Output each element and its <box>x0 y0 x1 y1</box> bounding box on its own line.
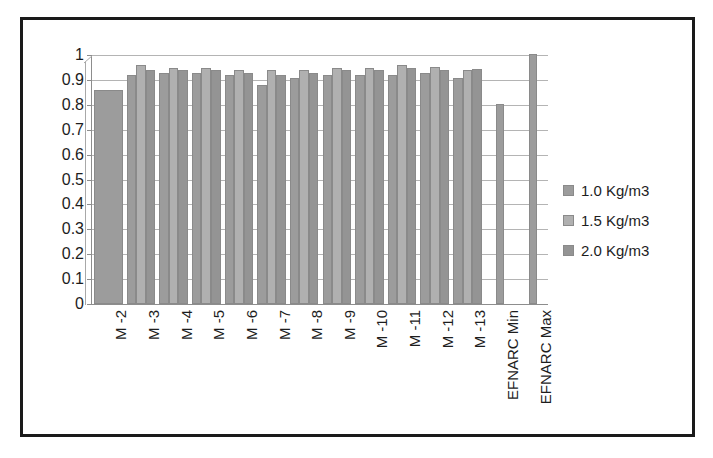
series-2-swatch <box>563 215 574 226</box>
bar[interactable] <box>211 70 221 304</box>
legend-label: 1.5 Kg/m3 <box>581 213 649 228</box>
legend-entry[interactable]: 1.5 Kg/m3 <box>563 205 688 235</box>
bar-group <box>192 55 221 304</box>
figure-frame: 10.90.80.70.60.50.40.30.20.10 M -2M -3M … <box>20 17 695 437</box>
bar[interactable] <box>374 70 384 304</box>
series-1-swatch <box>563 185 574 196</box>
bar[interactable] <box>496 104 504 304</box>
bar[interactable] <box>201 68 211 304</box>
bar[interactable] <box>309 73 319 304</box>
legend-label: 2.0 Kg/m3 <box>581 243 649 258</box>
x-tick-label: M -9 <box>342 310 357 340</box>
y-tick-label: 1 <box>75 47 84 63</box>
series-3-swatch <box>563 245 574 256</box>
y-tick-label: 0.4 <box>62 196 84 212</box>
bar[interactable] <box>178 70 188 304</box>
bar-group <box>94 55 123 304</box>
y-tick-label: 0 <box>75 296 84 312</box>
y-tick-label: 0.9 <box>62 72 84 88</box>
legend-entry[interactable]: 2.0 Kg/m3 <box>563 235 688 265</box>
y-tick-label: 0.8 <box>62 97 84 113</box>
bar[interactable] <box>244 73 254 304</box>
bar[interactable] <box>225 75 235 304</box>
x-tick-label: EFNARC Max <box>538 310 553 404</box>
bar-group <box>127 55 156 304</box>
plot-area: 10.90.80.70.60.50.40.30.20.10 <box>91 55 548 305</box>
bar[interactable] <box>397 65 407 304</box>
chart-legend: 1.0 Kg/m31.5 Kg/m32.0 Kg/m3 <box>563 175 688 265</box>
bar[interactable] <box>234 70 244 304</box>
bar-group <box>453 55 482 304</box>
bar[interactable] <box>453 78 463 304</box>
y-tick-label: 0.5 <box>62 172 84 188</box>
x-tick-label: M -8 <box>309 310 324 340</box>
x-tick-label: M -10 <box>374 310 389 348</box>
x-tick-label: M -7 <box>277 310 292 340</box>
bar[interactable] <box>365 68 375 304</box>
bar[interactable] <box>440 70 450 304</box>
chart-canvas: 10.90.80.70.60.50.40.30.20.10 M -2M -3M … <box>23 20 692 434</box>
y-tick-label: 0.6 <box>62 147 84 163</box>
bar-group <box>323 55 352 304</box>
bar[interactable] <box>94 90 123 304</box>
bars-layer <box>92 55 548 304</box>
x-tick-label: EFNARC Min <box>505 310 520 400</box>
bar-group <box>388 55 417 304</box>
legend-label: 1.0 Kg/m3 <box>581 183 649 198</box>
bar[interactable] <box>146 70 156 304</box>
bar-group <box>355 55 384 304</box>
y-tick-label: 0.3 <box>62 221 84 237</box>
bar[interactable] <box>136 65 146 304</box>
bar[interactable] <box>332 68 342 304</box>
legend-entry[interactable]: 1.0 Kg/m3 <box>563 175 688 205</box>
y-tick-label: 0.1 <box>62 271 84 287</box>
bar-group <box>290 55 319 304</box>
bar[interactable] <box>323 75 333 304</box>
bar[interactable] <box>420 73 430 304</box>
x-tick-label: M -6 <box>244 310 259 340</box>
bar[interactable] <box>355 75 365 304</box>
x-tick-label: M -2 <box>113 310 128 340</box>
y-tick-label: 0.2 <box>62 246 84 262</box>
bar-group <box>486 55 515 304</box>
bar[interactable] <box>127 75 137 304</box>
y-tick-mark <box>87 304 92 305</box>
bar-group <box>225 55 254 304</box>
x-tick-label: M -13 <box>472 310 487 348</box>
bar[interactable] <box>299 70 309 304</box>
bar[interactable] <box>529 54 537 304</box>
bar[interactable] <box>192 73 202 304</box>
x-tick-label: M -12 <box>440 310 455 348</box>
x-tick-label: M -3 <box>146 310 161 340</box>
bar[interactable] <box>276 75 286 304</box>
bar[interactable] <box>290 78 300 304</box>
bar[interactable] <box>342 70 352 304</box>
bar[interactable] <box>463 70 473 304</box>
bar[interactable] <box>267 70 277 304</box>
bar[interactable] <box>388 75 398 304</box>
x-tick-label: M -4 <box>179 310 194 340</box>
x-tick-label: M -5 <box>211 310 226 340</box>
bar[interactable] <box>159 73 169 304</box>
y-tick-label: 0.7 <box>62 122 84 138</box>
bar-group <box>518 55 547 304</box>
bar[interactable] <box>472 69 482 304</box>
bar[interactable] <box>430 67 440 305</box>
bar[interactable] <box>257 85 267 304</box>
bar-group <box>159 55 188 304</box>
bar-group <box>257 55 286 304</box>
bar[interactable] <box>407 68 417 304</box>
bar[interactable] <box>169 68 179 304</box>
x-axis-labels: M -2M -3M -4M -5M -6M -7M -8M -9M -10M -… <box>91 310 548 430</box>
bar-group <box>420 55 449 304</box>
x-tick-label: M -11 <box>407 310 422 347</box>
